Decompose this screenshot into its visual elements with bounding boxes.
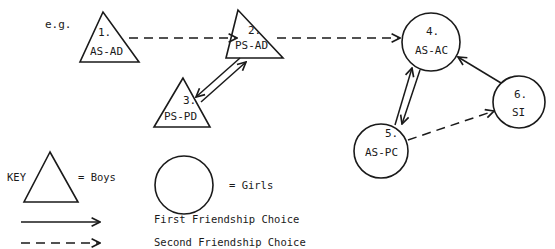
node-1-number: 1. — [98, 26, 111, 39]
node-2-label: PS-AD — [235, 39, 268, 52]
node-3-label: PS-PD — [164, 110, 197, 123]
node-4-girl: 4. AS-AC — [402, 13, 460, 71]
legend-first-choice-label: First Friendship Choice — [154, 213, 299, 225]
node-2-number: 2. — [248, 24, 261, 37]
legend-girls-label: = Girls — [229, 179, 273, 191]
node-5-label: AS-PC — [365, 146, 398, 159]
triangle-icon — [24, 152, 78, 202]
legend-title: KEY — [7, 171, 27, 183]
edge-3-to-2-first-choice — [201, 62, 246, 102]
node-6-girl: 6. SI — [493, 76, 545, 128]
node-1-boy: 1. AS-AD — [80, 12, 139, 62]
legend-second-choice-label: Second Friendship Choice — [154, 236, 306, 248]
node-3-boy: 3. PS-PD — [154, 78, 210, 127]
node-2-boy: 2. PS-AD — [226, 10, 283, 58]
edge-2-to-3-first-choice — [196, 58, 240, 97]
node-4-number: 4. — [426, 25, 439, 38]
node-5-girl: 5. AS-PC — [354, 124, 408, 178]
edge-4-to-5-first-choice — [402, 70, 420, 124]
example-label: e.g. — [45, 18, 72, 31]
edge-5-to-6-second-choice — [408, 111, 494, 140]
node-3-number: 3. — [183, 94, 196, 107]
edge-6-to-4-first-choice — [458, 57, 501, 83]
circle-icon — [155, 156, 213, 214]
node-1-label: AS-AD — [90, 45, 123, 58]
legend: KEY = Boys = Girls First Friendship Choi… — [7, 152, 306, 248]
circle-icon — [493, 76, 545, 128]
circle-icon — [402, 13, 460, 71]
edge-5-to-4-first-choice — [395, 68, 412, 125]
node-6-label: SI — [512, 106, 525, 119]
node-4-label: AS-AC — [415, 44, 448, 57]
node-5-number: 5. — [385, 127, 398, 140]
node-6-number: 6. — [514, 88, 527, 101]
legend-boys-label: = Boys — [78, 171, 116, 183]
sociogram-diagram: e.g. 1. AS-AD 2. PS-AD 3. PS-PD 4. AS-AC… — [0, 0, 555, 249]
